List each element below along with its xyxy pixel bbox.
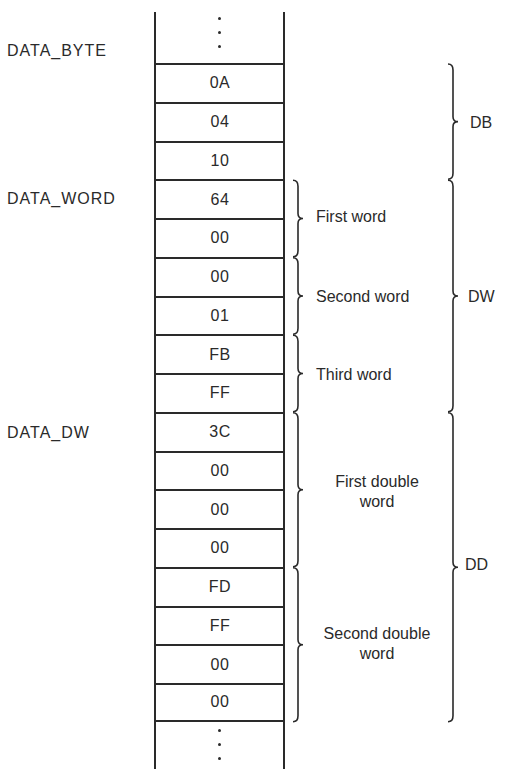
group-second-double-word: Second double word	[312, 624, 442, 664]
curly-brace-icon	[448, 413, 458, 722]
group-dd: DD	[465, 555, 488, 575]
group-third-word: Third word	[316, 365, 392, 385]
curly-brace-icon	[293, 413, 303, 567]
group-second-double-word-line1: Second double	[312, 624, 442, 644]
brace-icons	[0, 0, 522, 769]
curly-brace-icon	[293, 335, 303, 412]
curly-brace-icon	[293, 180, 303, 257]
group-first-double-word-line2: word	[312, 492, 442, 512]
group-dw: DW	[468, 287, 495, 307]
group-first-double-word-line1: First double	[312, 472, 442, 492]
group-second-word: Second word	[316, 287, 409, 307]
group-first-word: First word	[316, 207, 386, 227]
group-db: DB	[470, 113, 492, 133]
curly-brace-icon	[448, 180, 458, 412]
curly-brace-icon	[293, 258, 303, 335]
group-first-double-word: First double word	[312, 472, 442, 512]
group-second-double-word-line2: word	[312, 644, 442, 664]
curly-brace-icon	[293, 568, 303, 722]
curly-brace-icon	[448, 64, 458, 179]
